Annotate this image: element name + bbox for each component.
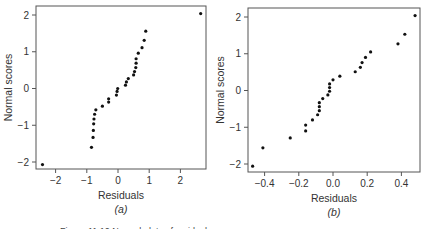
data-point (115, 94, 118, 97)
y-axis-label: Normal scores (2, 54, 14, 122)
data-point (143, 39, 146, 42)
data-point (115, 90, 118, 93)
data-point (289, 136, 292, 139)
data-point (326, 93, 329, 96)
data-point (318, 105, 321, 108)
data-point (360, 61, 363, 64)
x-tick-label: 0.0 (326, 178, 340, 189)
data-point (125, 80, 128, 83)
y-tick-label: 1 (235, 48, 241, 59)
data-point (92, 129, 95, 132)
data-point (140, 46, 143, 49)
x-tick-label: 1 (146, 175, 152, 186)
data-point (304, 123, 307, 126)
y-tick-label: −1 (230, 122, 242, 133)
y-tick-label: 0 (23, 83, 29, 94)
x-tick-label: −1 (81, 175, 93, 186)
data-point (403, 33, 406, 36)
data-point (94, 108, 97, 111)
x-tick-label: −0.2 (289, 178, 309, 189)
data-point (127, 77, 130, 80)
data-point (364, 56, 367, 59)
data-point (328, 86, 331, 89)
data-point (369, 50, 372, 53)
data-point (396, 42, 399, 45)
data-point (359, 66, 362, 69)
data-point (331, 78, 334, 81)
figure-caption: Figure 11.10 Normal plots of residuals (60, 226, 212, 229)
y-axis-label: Normal scores (214, 56, 226, 124)
data-point (261, 146, 264, 149)
data-point (134, 62, 137, 65)
x-tick-label: 0 (115, 175, 121, 186)
data-point (107, 100, 110, 103)
y-tick-label: −1 (18, 120, 30, 131)
y-tick-label: 0 (235, 85, 241, 96)
data-point (321, 97, 324, 100)
data-point (318, 109, 321, 112)
scatter-panel-a: −2−1012−2−1012ResidualsNormal scores(a) (2, 6, 206, 215)
plot-frame (36, 6, 206, 169)
x-tick-label: 0.4 (394, 178, 408, 189)
x-tick-label: 2 (178, 175, 184, 186)
x-tick-label: −0.4 (255, 178, 275, 189)
data-point (354, 70, 357, 73)
scatter-panel-b: −0.4−0.20.00.20.4−2−1012ResidualsNormal … (214, 8, 420, 218)
data-point (116, 87, 119, 90)
data-point (144, 30, 147, 33)
data-point (133, 70, 136, 73)
data-point (134, 57, 137, 60)
y-tick-label: −2 (230, 159, 242, 170)
x-tick-label: −2 (50, 175, 62, 186)
x-axis-label: Residuals (98, 189, 144, 201)
data-point (413, 14, 416, 17)
x-axis-label: Residuals (311, 192, 357, 204)
data-point (311, 118, 314, 121)
plot-frame (248, 8, 420, 172)
data-point (91, 136, 94, 139)
data-point (92, 122, 95, 125)
y-tick-label: 2 (235, 12, 241, 23)
data-point (124, 84, 127, 87)
data-point (101, 105, 104, 108)
data-point (199, 12, 202, 15)
panel-label: (a) (115, 203, 128, 215)
panel-label: (b) (328, 206, 341, 218)
data-point (328, 90, 331, 93)
data-point (92, 117, 95, 120)
data-point (316, 113, 319, 116)
data-point (90, 146, 93, 149)
y-tick-label: 2 (23, 10, 29, 21)
data-point (251, 165, 254, 168)
data-point (318, 101, 321, 104)
data-point (137, 52, 140, 55)
y-tick-label: −2 (18, 157, 30, 168)
figure-canvas: −2−1012−2−1012ResidualsNormal scores(a) … (0, 0, 426, 229)
data-point (93, 113, 96, 116)
data-point (132, 73, 135, 76)
data-point (304, 129, 307, 132)
data-point (134, 66, 137, 69)
data-point (328, 82, 331, 85)
data-point (107, 97, 110, 100)
data-point (338, 75, 341, 78)
x-tick-label: 0.2 (360, 178, 374, 189)
data-point (41, 163, 44, 166)
y-tick-label: 1 (23, 46, 29, 57)
